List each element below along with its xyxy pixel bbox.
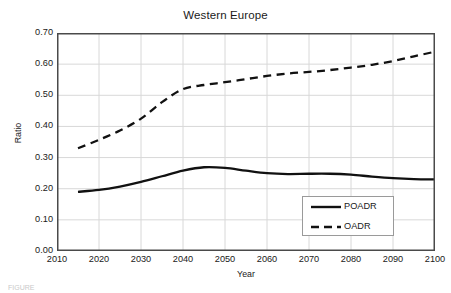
x-axis-title: Year [57,269,435,279]
series-lines [78,52,435,192]
x-tick-label: 2050 [205,255,245,264]
x-tick-label: 2020 [79,255,119,264]
chart-title: Western Europe [0,9,451,21]
x-tick-label: 2060 [247,255,287,264]
legend-label-poadr: POADR [344,202,377,211]
x-tick-label: 2100 [415,255,451,264]
legend-line-solid-icon [310,197,342,217]
chart-legend: POADR OADR [302,196,394,236]
figure-container: Western Europe Ratio 0.000.100.200.300.4… [0,0,451,293]
x-axis-tick-labels: 2010202020302040205020602070208020902100 [57,255,435,269]
y-tick-label: 0.20 [19,184,53,193]
y-tick-label: 0.60 [19,59,53,68]
y-tick-label: 0.30 [19,153,53,162]
x-tick-label: 2080 [331,255,371,264]
legend-item-oadr: OADR [303,217,395,237]
figure-caption: FIGURE [8,284,308,293]
y-tick-label: 0.10 [19,215,53,224]
x-tick-label: 2070 [289,255,329,264]
y-tick-label: 0.50 [19,90,53,99]
legend-label-oadr: OADR [344,222,371,231]
series-line-poadr [78,167,435,192]
x-tick-label: 2030 [121,255,161,264]
y-axis-tick-labels: 0.000.100.200.300.400.500.600.70 [15,33,53,251]
y-tick-label: 0.40 [19,121,53,130]
y-tick-label: 0.70 [19,28,53,37]
legend-line-dashed-icon [310,217,342,237]
x-tick-label: 2010 [37,255,77,264]
x-tick-label: 2090 [373,255,413,264]
series-line-oadr [78,52,435,149]
x-tick-label: 2040 [163,255,203,264]
legend-item-poadr: POADR [303,197,395,217]
